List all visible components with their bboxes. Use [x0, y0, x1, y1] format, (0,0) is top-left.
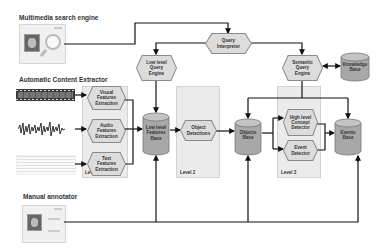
high-level-concept-detector-node[interactable]: High levelConceptDetector	[284, 110, 317, 135]
audio-features-extraction-node[interactable]: AudioFeaturesExtraction	[88, 120, 125, 142]
text-features-extraction-node[interactable]: TextFeaturesExtraction	[88, 153, 125, 175]
knowledge-base-db[interactable]: Knowledge Base	[340, 52, 370, 82]
object-detections-node[interactable]: ObjectDetections	[181, 121, 216, 140]
event-detector-node[interactable]: EventDetector	[284, 141, 317, 160]
semantic-query-engine-node[interactable]: SemanticQueryEngine	[283, 56, 322, 80]
events-base-db[interactable]: Events Base	[334, 118, 362, 156]
objects-base-db[interactable]: Objects Base	[234, 118, 262, 156]
low-level-query-engine-node[interactable]: Low levelQueryEngine	[137, 56, 176, 80]
visual-features-extraction-node[interactable]: VisualFeaturesExtraction	[88, 87, 125, 109]
low-level-features-base-db[interactable]: Low level Features Base	[142, 112, 170, 156]
query-interpreter-node[interactable]: QueryInterpreter	[206, 34, 251, 53]
